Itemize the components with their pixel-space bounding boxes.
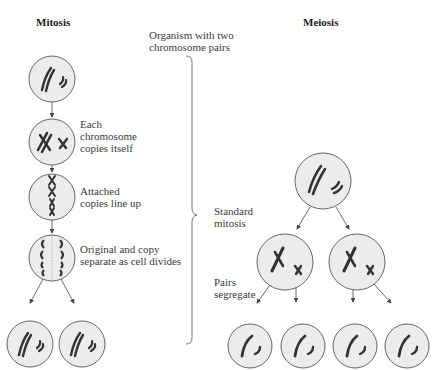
arrow <box>30 279 43 303</box>
mitosis-daughter-cell <box>59 321 105 367</box>
diagram-canvas <box>0 0 433 370</box>
arrow <box>374 284 391 303</box>
mitosis-cell-anaphase <box>29 235 75 281</box>
meiosis-gamete-cell <box>385 324 429 368</box>
meiosis-gamete-cell <box>281 324 325 368</box>
mitosis-daughter-cell <box>7 321 53 367</box>
arrow <box>336 207 349 229</box>
arrow <box>257 285 270 303</box>
meiosis-gamete-cell <box>228 324 272 368</box>
meiosis-cell-parent <box>295 153 351 209</box>
meiosis-cell-middle <box>329 234 385 290</box>
arrow <box>297 207 310 229</box>
meiosis-gamete-cell <box>333 324 377 368</box>
bracket <box>186 56 197 344</box>
mitosis-cell-parent <box>29 56 75 102</box>
mitosis-cell-duplicated <box>29 119 75 165</box>
arrow <box>61 279 74 303</box>
mitosis-cell-metaphase <box>29 174 75 220</box>
meiosis-cell-middle <box>257 234 313 290</box>
